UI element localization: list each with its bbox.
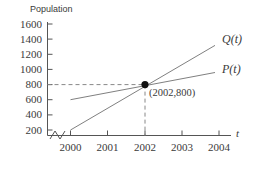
intersection-point-marker xyxy=(141,81,148,88)
x-tick-label-2004: 2004 xyxy=(199,142,239,153)
y-tick-label-1400: 1400 xyxy=(8,34,42,45)
series-label-q: Q(t) xyxy=(222,33,242,45)
y-axis-ticks xyxy=(48,24,53,130)
x-tick-label-2000: 2000 xyxy=(51,142,91,153)
y-axis-title: Population xyxy=(30,5,73,14)
y-tick-label-1000: 1000 xyxy=(8,64,42,75)
x-tick-label-2001: 2001 xyxy=(88,142,128,153)
x-axis-break-mark xyxy=(50,131,65,139)
y-tick-label-400: 400 xyxy=(8,109,42,120)
population-line-chart: Population 1600 1400 1200 1000 800 600 4… xyxy=(0,0,263,170)
y-tick-label-1200: 1200 xyxy=(8,49,42,60)
y-tick-label-1600: 1600 xyxy=(8,19,42,30)
x-tick-label-2002: 2002 xyxy=(125,142,165,153)
series-label-p: P(t) xyxy=(222,63,241,75)
y-tick-label-200: 200 xyxy=(8,125,42,136)
intersection-point-label: (2002,800) xyxy=(149,88,195,99)
y-tick-label-800: 800 xyxy=(8,79,42,90)
x-tick-label-2003: 2003 xyxy=(162,142,202,153)
x-axis-title: t xyxy=(236,128,239,139)
y-tick-label-600: 600 xyxy=(8,94,42,105)
